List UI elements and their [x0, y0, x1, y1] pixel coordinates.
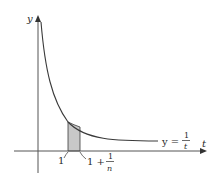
plot-canvas: y t y = 1 t 1 1 + 1 n: [0, 0, 214, 181]
curve-label-lhs: y =: [161, 136, 179, 147]
curve-label-numerator: 1: [184, 131, 189, 140]
curve-label-denominator: t: [184, 142, 188, 151]
marker-label-right-denominator: n: [107, 164, 112, 173]
diagram-figure: y t y = 1 t 1 1 + 1 n: [0, 0, 214, 181]
marker-label-1: 1: [58, 155, 64, 166]
marker-pointer-1: [64, 152, 68, 158]
marker-pointer-1-plus-1-over-n: [80, 152, 86, 159]
y-axis-arrow-icon: [35, 15, 41, 22]
curve-y-equals-1-over-t: [41, 22, 158, 141]
marker-label-right-prefix: 1 +: [87, 156, 105, 167]
shaded-area: [68, 122, 80, 151]
y-axis-label: y: [26, 13, 33, 24]
marker-label-right-numerator: 1: [108, 152, 113, 161]
x-axis-label: t: [202, 138, 207, 149]
